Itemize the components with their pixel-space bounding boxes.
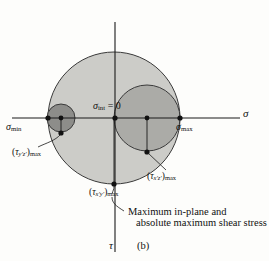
sigma-int-value: = 0: [105, 100, 121, 111]
point-inner-center: [59, 116, 64, 121]
figure-caption-note: Maximum in-plane and absolute maximum sh…: [128, 206, 267, 228]
label-sigma-min: σmin: [6, 122, 22, 133]
caption-line-2: absolute maximum shear stress: [136, 217, 267, 228]
mohrs-circle-figure: σmin σmax σint = 0 σ τ (τy′z′)max (τx′z′…: [0, 0, 269, 261]
tau-xy-subscript: x′y′: [96, 190, 105, 197]
label-sigma-max: σmax: [176, 122, 193, 133]
point-sigma-max: [177, 115, 182, 120]
tau-xz-subscript: x′z′: [154, 174, 162, 181]
tau-xz-max-subscript: max: [165, 174, 176, 181]
point-tau-xy-max: [111, 181, 116, 186]
point-sigma-min: [45, 115, 50, 120]
leader-line-caption: [112, 197, 124, 211]
point-sigma-int: [112, 115, 117, 120]
figure-part-label: (b): [137, 240, 149, 251]
label-tau-axis: τ: [109, 240, 113, 252]
label-sigma-axis: σ: [243, 108, 248, 120]
sigma-min-subscript: min: [11, 125, 22, 132]
label-tau-xz-max: (τx′z′)max: [147, 172, 176, 182]
sigma-max-subscript: max: [181, 125, 193, 132]
point-tau-yz-max: [58, 130, 63, 135]
tau-xy-max-subscript: max: [107, 190, 118, 197]
caption-line-1: Maximum in-plane and: [128, 206, 227, 217]
point-mid-center: [145, 116, 150, 121]
label-tau-xy-max: (τx′y′)max: [89, 188, 118, 198]
label-sigma-int: σint = 0: [93, 101, 121, 112]
tau-yz-max-subscript: max: [30, 150, 41, 157]
label-tau-yz-max: (τy′z′)max: [12, 148, 41, 158]
tau-yz-subscript: y′z′: [19, 150, 27, 157]
